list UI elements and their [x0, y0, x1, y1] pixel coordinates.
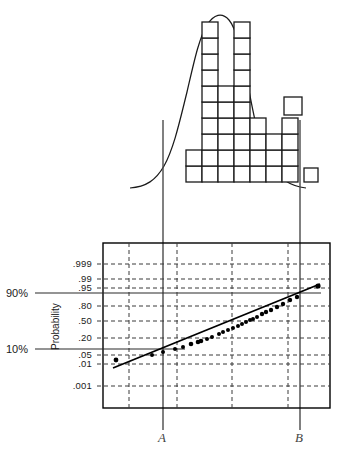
data-block — [250, 118, 266, 134]
data-block — [234, 70, 250, 86]
data-point — [240, 322, 244, 326]
ytick-label-5: .20 — [58, 332, 92, 343]
data-block — [282, 166, 298, 182]
data-point — [199, 339, 204, 344]
data-block — [202, 166, 218, 182]
histogram-panel — [130, 15, 318, 188]
data-block — [282, 134, 298, 150]
data-block — [218, 166, 234, 182]
ytick-label-4: .50 — [58, 315, 92, 326]
data-point — [173, 347, 177, 351]
reference-label-a: A — [158, 430, 166, 446]
data-point — [236, 324, 240, 328]
data-point — [189, 342, 194, 347]
data-block — [218, 134, 234, 150]
data-block — [266, 134, 282, 150]
reference-label-b: B — [295, 430, 303, 446]
data-block — [202, 38, 218, 54]
data-block — [202, 102, 218, 118]
data-block — [282, 150, 298, 166]
data-block — [202, 86, 218, 102]
data-point — [251, 317, 255, 321]
ytick-label-2: .95 — [58, 282, 92, 293]
data-point — [264, 310, 268, 314]
ytick-label-3: .80 — [58, 300, 92, 311]
data-block — [234, 54, 250, 70]
data-block — [234, 134, 250, 150]
data-point — [295, 295, 299, 299]
data-point — [269, 308, 273, 312]
data-block — [202, 118, 218, 134]
figure-canvas — [0, 0, 349, 453]
data-block — [234, 22, 250, 38]
data-block — [202, 134, 218, 150]
ytick-label-0: .999 — [58, 258, 92, 269]
data-point — [275, 305, 279, 309]
data-block — [234, 86, 250, 102]
data-block — [202, 22, 218, 38]
data-point — [210, 335, 214, 339]
histogram-blocks — [186, 22, 318, 182]
percent-label-90: 90% — [6, 287, 28, 299]
data-point — [288, 298, 292, 302]
data-block — [234, 166, 250, 182]
data-block — [234, 118, 250, 134]
data-block — [284, 97, 302, 115]
data-block — [250, 150, 266, 166]
data-point — [260, 312, 264, 316]
data-block — [218, 118, 234, 134]
data-points — [114, 283, 321, 362]
data-point — [114, 358, 119, 363]
data-point — [181, 345, 185, 349]
data-block — [304, 168, 318, 182]
data-point — [150, 353, 154, 357]
horizontal-gridlines — [97, 264, 330, 386]
data-block — [250, 166, 266, 182]
data-block — [186, 150, 202, 166]
data-block — [218, 102, 234, 118]
data-block — [234, 150, 250, 166]
data-block — [202, 54, 218, 70]
data-point — [231, 326, 235, 330]
data-point — [315, 283, 320, 288]
data-block — [202, 150, 218, 166]
data-point — [161, 350, 165, 354]
data-point — [217, 332, 221, 336]
data-block — [218, 150, 234, 166]
data-block — [282, 118, 298, 134]
data-block — [234, 38, 250, 54]
data-point — [281, 302, 285, 306]
vertical-gridlines — [129, 243, 288, 408]
data-block — [234, 102, 250, 118]
data-block — [202, 70, 218, 86]
data-point — [205, 337, 209, 341]
data-block — [218, 86, 234, 102]
y-axis-title: Probability — [50, 303, 61, 350]
data-point — [226, 328, 230, 332]
ytick-label-7: .01 — [58, 358, 92, 369]
data-block — [266, 150, 282, 166]
data-point — [221, 330, 225, 334]
percent-label-10: 10% — [6, 343, 28, 355]
data-block — [266, 166, 282, 182]
ytick-label-8: .001 — [58, 380, 92, 391]
data-block — [186, 166, 202, 182]
data-block — [250, 134, 266, 150]
data-point — [244, 320, 248, 324]
data-point — [255, 315, 259, 319]
